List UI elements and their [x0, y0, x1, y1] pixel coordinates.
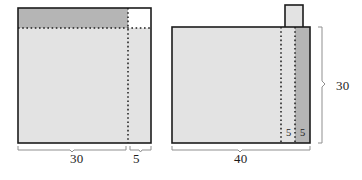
- left-top-shaded-band: [18, 8, 128, 28]
- right-top-tab-fill: [285, 5, 303, 28]
- right-inner-label-5-b: 5: [300, 128, 305, 139]
- left-figure: [18, 8, 151, 152]
- left-dimension-label-30: 30: [70, 152, 83, 165]
- diagram-svg: [0, 0, 362, 180]
- left-dimension-label-5: 5: [133, 152, 140, 165]
- right-dimension-label-40: 40: [234, 152, 247, 165]
- right-inner-label-5-a: 5: [286, 128, 291, 139]
- right-body-fill: [172, 27, 310, 143]
- left-body-fill: [18, 8, 151, 143]
- right-shaded-band: [295, 27, 310, 143]
- diagram-canvas: [0, 0, 362, 180]
- left-corner-white: [128, 8, 151, 28]
- right-bracket-30: [318, 27, 325, 143]
- right-dimension-label-30: 30: [336, 79, 349, 92]
